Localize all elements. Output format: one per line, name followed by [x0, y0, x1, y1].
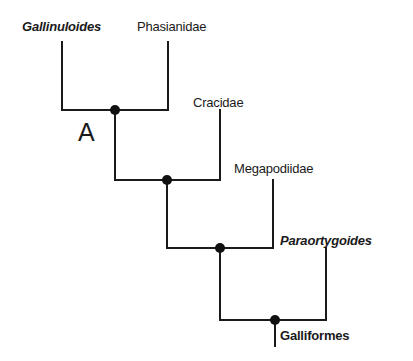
node-2-dot — [162, 175, 172, 185]
branch-gallinuloides — [62, 42, 115, 110]
node-4-dot — [270, 315, 280, 325]
taxon-label-paraortygoides: Paraortygoides — [280, 234, 372, 247]
taxon-label-megapodiidae: Megapodiidae — [234, 162, 313, 175]
taxon-label-gallinuloides: Gallinuloides — [22, 20, 101, 33]
branch-megapodiidae — [220, 180, 273, 248]
node-1-dot — [110, 105, 120, 115]
branch-cracidae — [167, 110, 220, 180]
branch-paraortygoides — [275, 248, 326, 320]
cladogram-tree — [0, 0, 413, 361]
taxon-label-cracidae: Cracidae — [193, 96, 243, 109]
cladogram-figure: Gallinuloides Phasianidae Cracidae Megap… — [0, 0, 413, 361]
branch-clade2-stem — [167, 180, 220, 248]
node-3-dot — [215, 243, 225, 253]
panel-label: A — [78, 120, 94, 145]
branch-clade3-stem — [220, 248, 275, 320]
root-label-galliformes: Galliformes — [280, 329, 349, 342]
taxon-label-phasianidae: Phasianidae — [137, 20, 206, 33]
branch-phasianidae — [115, 42, 168, 110]
branch-clade1-stem — [115, 110, 167, 180]
